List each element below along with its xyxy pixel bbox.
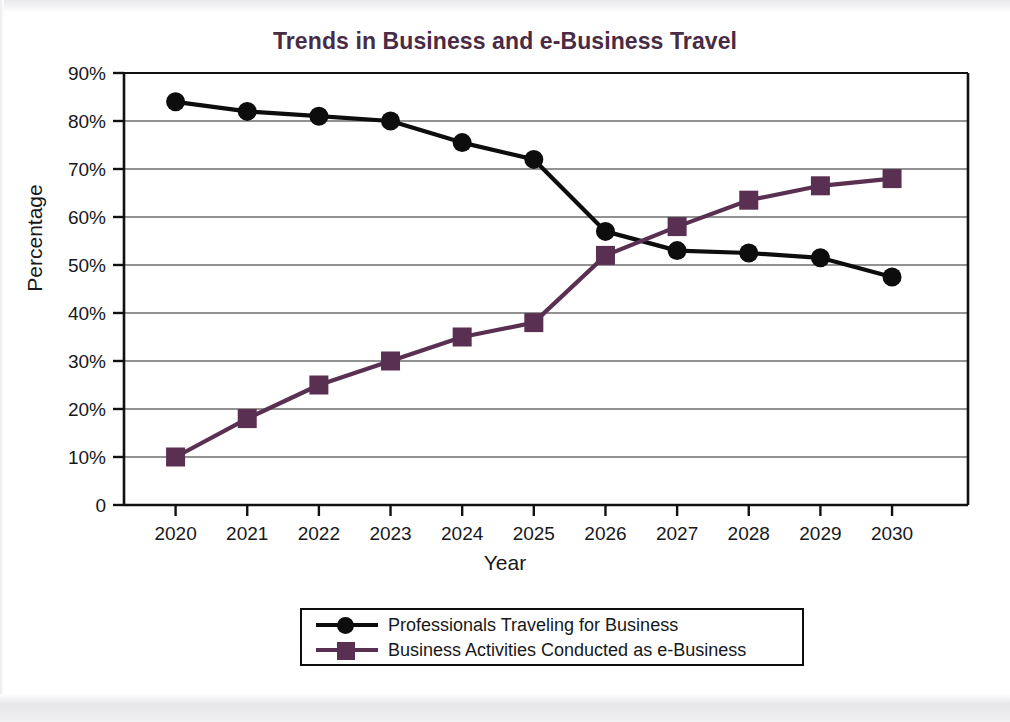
legend-label-ebusiness: Business Activities Conducted as e-Busin… xyxy=(388,640,746,661)
data-series xyxy=(166,92,901,466)
svg-text:2024: 2024 xyxy=(441,523,484,544)
svg-text:40%: 40% xyxy=(68,303,106,324)
legend-entry-professionals: Professionals Traveling for Business xyxy=(316,612,678,638)
svg-text:2026: 2026 xyxy=(584,523,626,544)
x-axis-ticks: 2020202120222023202420252026202720282029… xyxy=(154,505,913,544)
svg-text:2025: 2025 xyxy=(513,523,555,544)
plot-area: 010%20%30%40%50%60%70%80%90% 20202021202… xyxy=(0,0,1010,600)
svg-text:20%: 20% xyxy=(68,399,106,420)
svg-text:2030: 2030 xyxy=(871,523,913,544)
svg-text:2028: 2028 xyxy=(728,523,770,544)
svg-text:60%: 60% xyxy=(68,207,106,228)
svg-text:2027: 2027 xyxy=(656,523,698,544)
svg-text:0: 0 xyxy=(95,495,106,516)
chart-figure: Trends in Business and e-Business Travel… xyxy=(0,0,1010,700)
svg-text:2022: 2022 xyxy=(298,523,340,544)
svg-text:70%: 70% xyxy=(68,159,106,180)
svg-text:80%: 80% xyxy=(68,111,106,132)
legend-swatch-square xyxy=(316,639,378,661)
plot-frame xyxy=(124,73,968,505)
svg-text:2023: 2023 xyxy=(369,523,411,544)
y-axis-ticks: 010%20%30%40%50%60%70%80%90% xyxy=(68,63,124,516)
svg-text:30%: 30% xyxy=(68,351,106,372)
svg-text:2029: 2029 xyxy=(799,523,841,544)
chart-legend: Professionals Traveling for Business Bus… xyxy=(300,608,804,666)
legend-entry-ebusiness: Business Activities Conducted as e-Busin… xyxy=(316,637,746,663)
legend-label-professionals: Professionals Traveling for Business xyxy=(388,615,678,636)
svg-text:2021: 2021 xyxy=(226,523,268,544)
svg-text:2020: 2020 xyxy=(154,523,196,544)
svg-text:50%: 50% xyxy=(68,255,106,276)
svg-text:10%: 10% xyxy=(68,447,106,468)
svg-text:90%: 90% xyxy=(68,63,106,84)
legend-swatch-circle xyxy=(316,614,378,636)
